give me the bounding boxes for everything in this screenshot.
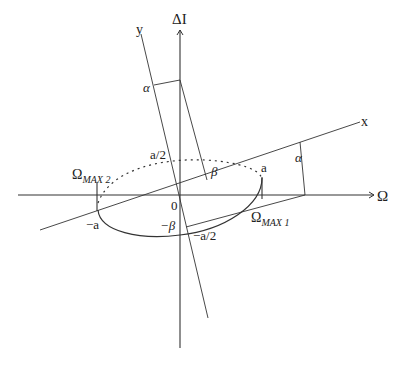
- rotated-x-axis-label: x: [361, 114, 368, 129]
- alpha-right-label: α: [295, 150, 303, 165]
- rotated-y-axis: [141, 34, 208, 318]
- delta-i-axis-label: ΔI: [172, 11, 187, 27]
- omega-max1-label: ΩMAX 1: [251, 210, 289, 228]
- beta-neg-label: −β: [160, 218, 176, 233]
- rotated-y-axis-label: y: [136, 22, 143, 37]
- a-pos-label: a: [261, 160, 267, 175]
- a-half-neg-label: −a/2: [193, 228, 216, 243]
- omega-max2-label: ΩMAX 2: [72, 167, 110, 185]
- origin-label: 0: [171, 198, 178, 213]
- a-neg-label: −a: [86, 217, 99, 232]
- alpha-top-label: α: [143, 80, 151, 95]
- a-half-pos-label: a/2: [150, 147, 166, 162]
- ellipse-rotation-diagram: Ω ΔI x y ΩMAX 2 ΩMAX 1 α β α −β a −a a/2…: [0, 0, 404, 365]
- omega-axis-label: Ω: [377, 188, 388, 204]
- beta-pos-label: β: [210, 164, 218, 179]
- beta-projection: [180, 80, 207, 180]
- alpha-top-projection: [154, 80, 180, 85]
